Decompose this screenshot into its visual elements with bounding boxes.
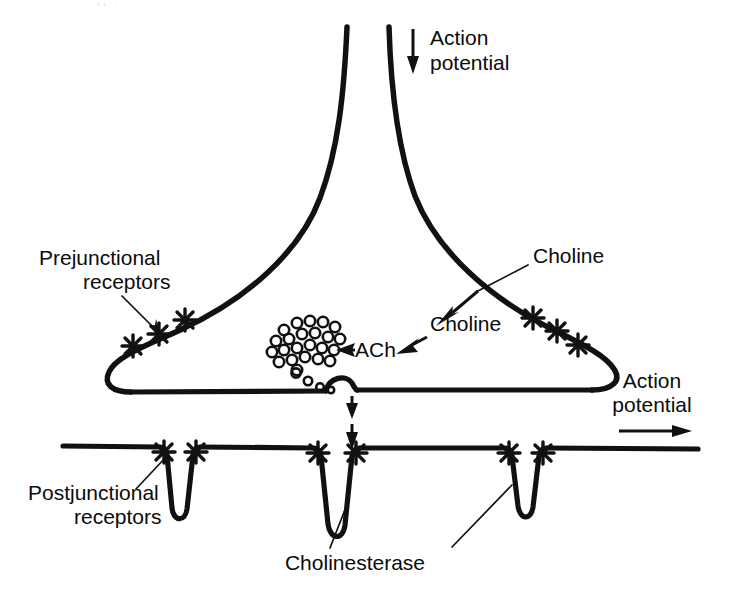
vesicle: [292, 343, 302, 353]
action-potential-top-label-line2: potential: [430, 51, 509, 74]
vesicle: [284, 334, 294, 344]
terminal-right-end: [560, 333, 617, 390]
prejunctional-receptor-mark: [174, 309, 196, 331]
postjunctional-receptor-mark: [498, 442, 520, 464]
vesicle: [335, 334, 345, 344]
postjunctional-receptor-mark: [307, 442, 329, 464]
choline-uptake-arrow-shaft: [452, 291, 478, 313]
choline-inner-arrowhead: [396, 338, 419, 354]
terminal-left-end: [107, 330, 180, 392]
prejunctional-receptor-mark: [567, 334, 589, 356]
vesicle: [330, 322, 340, 332]
action-potential-right-label-line2: potential: [612, 393, 691, 416]
vesicle: [305, 340, 315, 350]
cholinesterase-label: Cholinesterase: [285, 551, 425, 574]
prejunctional-receptor-mark: [522, 307, 544, 329]
vesicle-migrating: [328, 387, 334, 393]
vesicle: [317, 343, 327, 353]
prejunctional-receptors-leader-line: [122, 296, 156, 330]
vesicle: [313, 354, 323, 364]
choline-outer-label: Choline: [533, 244, 604, 267]
prejunctional-receptor-mark: [122, 335, 144, 357]
action-potential-right-arrowhead: [672, 425, 692, 437]
prejunctional-receptor-mark: [546, 320, 568, 342]
figure-canvas: ·· ,: [0, 0, 754, 595]
prejunctional-receptors-right-group: [522, 307, 589, 356]
ach-label: ACh: [355, 338, 396, 361]
release-site-bump: [326, 378, 357, 391]
vesicle: [318, 317, 328, 327]
action-potential-right-label-line1: Action: [623, 369, 681, 392]
vesicle: [287, 355, 297, 365]
prejunctional-receptors-annotation: Prejunctional receptors: [39, 246, 171, 336]
vesicle: [300, 352, 310, 362]
vesicle: [271, 336, 281, 346]
postjunctional-receptors-annotation: Postjunctional receptors: [28, 457, 166, 528]
postjunctional-receptor-mark: [532, 442, 554, 464]
prejunctional-receptors-label-line2: receptors: [83, 270, 171, 293]
action-potential-top-annotation: Action potential: [407, 26, 509, 74]
vesicle: [274, 357, 284, 367]
neuromuscular-junction-diagram: ACh Choline Choline Prejunctional recept…: [0, 0, 754, 595]
vesicle-cluster: [267, 316, 345, 375]
vesicle: [279, 345, 289, 355]
vesicle: [323, 332, 333, 342]
choline-outer-leader-line: [476, 265, 528, 292]
release-arrow-1-head: [346, 403, 358, 419]
choline-inner-label: Choline: [430, 312, 501, 335]
action-potential-top-label-line1: Action: [430, 26, 488, 49]
terminal-bottom-membrane-left: [131, 391, 326, 392]
vesicle: [267, 347, 277, 357]
cholinesterase-leader-line-right: [452, 485, 512, 547]
prejunctional-receptors-label-line1: Prejunctional: [39, 246, 160, 269]
vesicle: [310, 328, 320, 338]
vesicle-migrating: [316, 383, 324, 391]
vesicle: [297, 329, 307, 339]
axon-left-wall: [180, 27, 347, 330]
cholinesterase-annotation: Cholinesterase: [285, 485, 512, 574]
postjunctional-receptors-label-line2: receptors: [74, 505, 162, 528]
postjunctional-receptor-mark: [185, 441, 207, 463]
vesicle: [305, 316, 315, 326]
vesicle: [292, 318, 302, 328]
postjunctional-receptor-mark: [345, 442, 367, 464]
action-potential-top-arrowhead: [407, 56, 419, 74]
vesicle-migrating: [304, 377, 312, 385]
vesicle: [325, 356, 335, 366]
action-potential-right-annotation: Action potential: [612, 369, 692, 437]
